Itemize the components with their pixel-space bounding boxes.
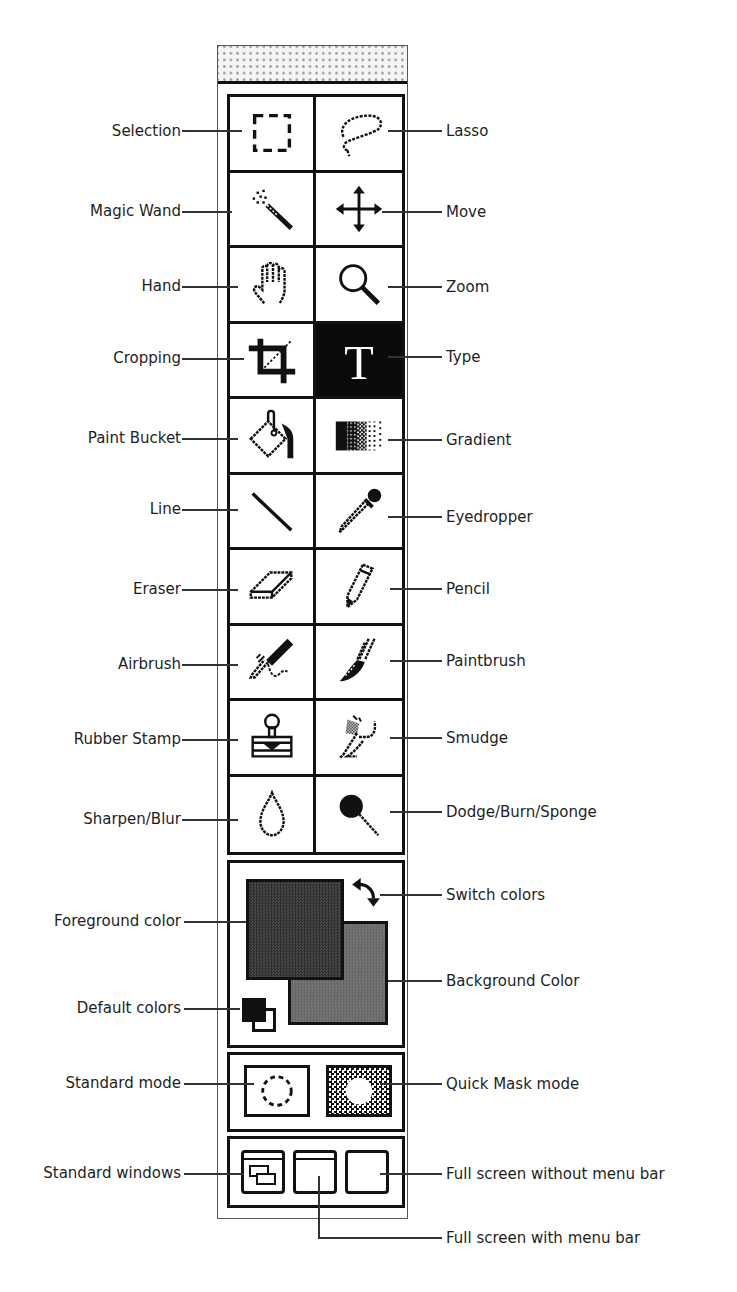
foreground-color-swatch[interactable] — [246, 879, 344, 980]
full-screen-menu-bar-button[interactable] — [293, 1150, 337, 1194]
standard-mode-button[interactable] — [244, 1065, 310, 1117]
color-swatches-panel — [227, 860, 405, 1048]
leader-line — [182, 664, 238, 666]
dashed-circle-icon — [258, 1072, 296, 1110]
label-line: Line — [150, 500, 181, 518]
leader-line — [380, 980, 442, 982]
label-rubber-stamp: Rubber Stamp — [74, 730, 181, 748]
leader-line — [390, 660, 442, 662]
leader-line — [388, 130, 442, 132]
marquee-icon — [243, 104, 301, 162]
leader-line — [182, 130, 242, 132]
label-magic-wand: Magic Wand — [90, 202, 181, 220]
type-icon: T — [330, 331, 388, 389]
leader-line — [388, 516, 442, 518]
label-paint-bucket: Paint Bucket — [88, 429, 181, 447]
standard-windows-button[interactable] — [241, 1150, 285, 1194]
tool-rubber-stamp[interactable] — [230, 701, 316, 777]
label-switch-colors: Switch colors — [446, 886, 545, 904]
palette-title-bar[interactable] — [218, 46, 407, 84]
label-full-screen-without-menu-bar: Full screen without menu bar — [446, 1165, 665, 1183]
tool-cropping[interactable] — [230, 324, 316, 400]
tool-airbrush[interactable] — [230, 626, 316, 702]
gradient-icon — [330, 406, 388, 464]
label-type: Type — [446, 348, 480, 366]
tool-palette: T — [217, 45, 408, 1219]
leader-line — [390, 811, 442, 813]
svg-text:T: T — [344, 336, 374, 389]
tool-magic-wand[interactable] — [230, 173, 316, 249]
full-screen-no-menu-bar-button[interactable] — [345, 1150, 389, 1194]
mask-mode-panel — [227, 1052, 405, 1132]
eyedropper-icon — [330, 482, 388, 540]
leader-line — [184, 1083, 254, 1085]
mask-circle-icon — [340, 1072, 378, 1110]
tool-sharpen-blur[interactable] — [230, 777, 316, 853]
leader-line — [318, 1176, 320, 1238]
label-paintbrush: Paintbrush — [446, 652, 526, 670]
label-dodge-burn-sponge: Dodge/Burn/Sponge — [446, 803, 597, 821]
leader-line — [182, 286, 238, 288]
tool-gradient[interactable] — [316, 399, 402, 475]
airbrush-icon — [243, 633, 301, 691]
label-sharpen-blur: Sharpen/Blur — [83, 810, 181, 828]
tool-lasso[interactable] — [316, 97, 402, 173]
tool-paint-bucket[interactable] — [230, 399, 316, 475]
label-foreground-color: Foreground color — [54, 912, 181, 930]
label-move: Move — [446, 203, 486, 221]
dodge-burn-sponge-icon — [330, 785, 388, 843]
eraser-icon — [243, 557, 301, 615]
default-colors-icon[interactable] — [242, 998, 278, 1034]
leader-line — [182, 739, 238, 741]
tool-dodge-burn-sponge[interactable] — [316, 777, 402, 853]
line-icon — [243, 482, 301, 540]
paint-bucket-icon — [243, 406, 301, 464]
switch-colors-icon[interactable] — [350, 877, 382, 909]
leader-line — [184, 1173, 244, 1175]
tool-hand[interactable] — [230, 248, 316, 324]
leader-line — [182, 358, 244, 360]
quick-mask-mode-button[interactable] — [326, 1065, 392, 1117]
tool-line[interactable] — [230, 475, 316, 551]
tool-type[interactable]: T — [316, 324, 402, 400]
tool-grid: T — [227, 94, 405, 855]
leader-line — [182, 438, 238, 440]
leader-line — [182, 819, 238, 821]
label-full-screen-with-menu-bar: Full screen with menu bar — [446, 1229, 640, 1247]
tool-eyedropper[interactable] — [316, 475, 402, 551]
leader-line — [388, 356, 442, 358]
label-eraser: Eraser — [133, 580, 181, 598]
rubber-stamp-icon — [243, 708, 301, 766]
leader-line — [380, 1173, 442, 1175]
magic-wand-icon — [243, 180, 301, 238]
leader-line — [182, 509, 238, 511]
smudge-icon — [330, 708, 388, 766]
tool-paintbrush[interactable] — [316, 626, 402, 702]
sharpen-blur-icon — [243, 785, 301, 843]
leader-line — [390, 588, 442, 590]
label-pencil: Pencil — [446, 580, 490, 598]
hand-icon — [243, 255, 301, 313]
leader-line — [382, 211, 442, 213]
menu-bar-line — [296, 1158, 334, 1160]
leader-line — [182, 589, 238, 591]
tool-selection[interactable] — [230, 97, 316, 173]
leader-line — [318, 1237, 442, 1239]
leader-line — [184, 1008, 240, 1010]
leader-line — [182, 211, 232, 213]
lasso-icon — [330, 104, 388, 162]
label-cropping: Cropping — [113, 349, 181, 367]
label-eyedropper: Eyedropper — [446, 508, 533, 526]
label-standard-windows: Standard windows — [43, 1164, 181, 1182]
leader-line — [388, 286, 442, 288]
leader-line — [380, 894, 442, 896]
label-selection: Selection — [112, 122, 181, 140]
crop-icon — [243, 331, 301, 389]
tool-eraser[interactable] — [230, 550, 316, 626]
leader-line — [380, 1083, 442, 1085]
window-title-bar-line — [244, 1158, 282, 1160]
label-smudge: Smudge — [446, 729, 508, 747]
label-gradient: Gradient — [446, 431, 511, 449]
leader-line — [390, 737, 442, 739]
leader-line — [388, 439, 442, 441]
